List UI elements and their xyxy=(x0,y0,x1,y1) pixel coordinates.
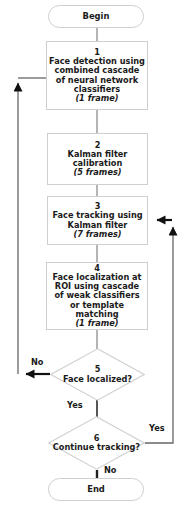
edge-label-yes-continue: Yes xyxy=(148,424,166,432)
node-begin-label: Begin xyxy=(83,12,110,21)
flowchart-canvas: Begin 1 Face detection using combined ca… xyxy=(0,0,186,510)
node-step6-text: Continue tracking? xyxy=(53,443,140,452)
node-step2-text: Kalman filter calibration xyxy=(50,150,145,168)
edge-step6-yes-to-right-rail xyxy=(145,227,173,443)
node-step5-text: Face localized? xyxy=(63,375,132,384)
node-step4-frames: (1 frame) xyxy=(75,319,118,328)
node-end-label: End xyxy=(87,485,105,494)
node-step2[interactable]: 2 Kalman filter calibration (5 frames) xyxy=(47,133,148,185)
node-step1-frames: (1 frame) xyxy=(75,94,118,103)
node-end[interactable]: End xyxy=(48,478,144,501)
node-step1[interactable]: 1 Face detection using combined cascade … xyxy=(46,41,148,110)
node-step4-text: Face localization at ROI using cascade o… xyxy=(49,273,145,319)
node-begin[interactable]: Begin xyxy=(48,5,144,28)
node-step1-text: Face detection using combined cascade of… xyxy=(49,57,145,94)
node-step3[interactable]: 3 Face tracking using Kalman filter (7 f… xyxy=(47,196,148,245)
node-step2-frames: (5 frames) xyxy=(73,168,121,177)
node-step3-text: Face tracking using Kalman filter xyxy=(50,211,145,229)
node-step3-frames: (7 frames) xyxy=(73,230,121,239)
edge-label-yes-face-localized: Yes xyxy=(66,401,84,409)
edge-label-no-continue: No xyxy=(103,466,117,474)
node-step5[interactable]: 5 Face localized? xyxy=(50,348,145,401)
node-step6[interactable]: 6 Continue tracking? xyxy=(48,416,145,470)
node-step4[interactable]: 4 Face localization at ROI using cascade… xyxy=(46,262,148,330)
edge-label-no-face-localized: No xyxy=(30,358,44,366)
